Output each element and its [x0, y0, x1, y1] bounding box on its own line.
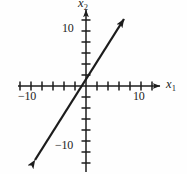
y-axis-label: x2: [78, 0, 88, 11]
x-axis-tick-label-negative-ten: −10: [18, 89, 36, 104]
x-axis-tick-label-positive-ten: 10: [133, 89, 145, 104]
y-axis: [82, 10, 91, 172]
line-segment: [35, 19, 124, 160]
graph-figure: x1 x2 −10 10 10 −10: [0, 0, 187, 174]
x-axis-label: x1: [166, 77, 176, 92]
y-axis-tick-label-positive-ten: 10: [62, 21, 74, 36]
plotted-line: [35, 19, 124, 160]
plot-canvas: [0, 0, 187, 174]
y-axis-tick-label-negative-ten: −10: [55, 138, 73, 153]
